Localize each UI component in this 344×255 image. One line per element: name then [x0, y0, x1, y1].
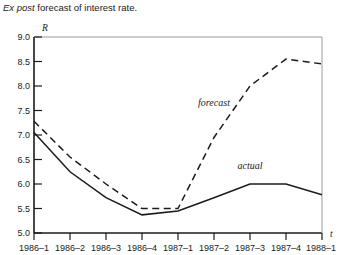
y-label-0: 9.0 [17, 32, 30, 42]
y-label-8: 5.0 [17, 228, 30, 238]
x-tick-labels: 1986–1 1986–2 1986–3 1986–4 1987–1 1987–… [19, 243, 336, 253]
y-label-1: 8.5 [17, 57, 30, 67]
x-label-4: 1987–1 [163, 243, 193, 253]
series-annotation-forecast: forecast [198, 97, 230, 108]
caption-rest: forecast of interest rate. [35, 2, 137, 13]
x-label-8: 1988–1 [306, 243, 336, 253]
y-label-7: 5.5 [17, 204, 30, 214]
chart-plot: 9.0 8.5 8.0 7.5 7.0 6.5 6.0 5.5 5.0 1986… [0, 18, 344, 255]
y-label-2: 8.0 [17, 81, 30, 91]
caption-italic-lead: Ex post [3, 2, 35, 13]
figure-container: Ex post forecast of interest rate. 9.0 8… [0, 0, 344, 255]
x-label-0: 1986–1 [19, 243, 49, 253]
y-label-6: 6.0 [17, 179, 30, 189]
x-axis-name: t [330, 229, 333, 239]
y-label-3: 7.5 [17, 106, 30, 116]
series-annotation-actual: actual [238, 160, 263, 171]
x-label-2: 1986–3 [91, 243, 121, 253]
figure-caption: Ex post forecast of interest rate. [3, 2, 137, 14]
series-line-forecast [34, 59, 322, 208]
y-label-4: 7.0 [17, 130, 30, 140]
x-label-1: 1986–2 [55, 243, 85, 253]
series-line-actual [34, 133, 322, 215]
x-label-7: 1987–4 [271, 243, 301, 253]
x-label-6: 1987–3 [235, 243, 265, 253]
x-label-5: 1987–2 [199, 243, 229, 253]
x-label-3: 1986–4 [127, 243, 157, 253]
y-label-5: 6.5 [17, 155, 30, 165]
y-ticks [34, 37, 42, 233]
y-axis-name: R [41, 23, 48, 33]
y-tick-labels: 9.0 8.5 8.0 7.5 7.0 6.5 6.0 5.5 5.0 [17, 32, 30, 238]
x-ticks [34, 233, 322, 240]
